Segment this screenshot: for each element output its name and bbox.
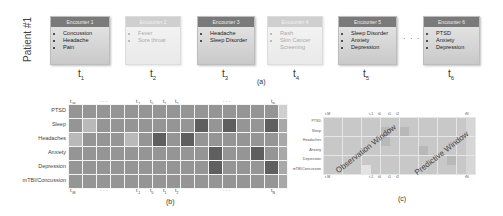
- heatmap-cell: [111, 133, 124, 146]
- heatmap-cell: [167, 119, 180, 132]
- heatmap-cell: [381, 156, 390, 165]
- diagnosis-list: ConcussionHeadachePain: [51, 30, 109, 51]
- heatmap-cell: [223, 133, 236, 146]
- heatmap-cell: [139, 119, 152, 132]
- heatmap-cell: [125, 133, 138, 146]
- diagnosis-list: Sleep DisorderAnxietyDepression: [339, 30, 396, 51]
- time-label: t4: [293, 68, 299, 81]
- heatmap-cell: [111, 175, 124, 188]
- heatmap-cell: [111, 119, 124, 132]
- heatmap-cell: [251, 119, 264, 132]
- heatmap-cell: [209, 119, 222, 132]
- heatmap-cell: [438, 165, 447, 174]
- row-label: Sleep: [52, 121, 66, 127]
- heatmap-cell: [125, 161, 138, 174]
- diagnosis-item: Depression: [351, 44, 396, 51]
- column-label: tN: [465, 112, 469, 116]
- heatmap-cell: [251, 161, 264, 174]
- encounter-title: Encounter 2: [126, 17, 180, 27]
- heatmap-cell: [83, 119, 96, 132]
- row-label: Anxiety: [309, 148, 321, 152]
- heatmap-cell: [265, 175, 278, 188]
- heatmap-cell: [390, 165, 399, 174]
- heatmap-cell: [195, 105, 208, 118]
- heatmap-cell: [279, 105, 287, 118]
- heatmap-cell: [381, 165, 390, 174]
- diagnosis-item: Headache: [210, 30, 254, 37]
- heatmap-cell: [438, 118, 447, 127]
- column-label: t0: [378, 175, 381, 179]
- heatmap-cell: [457, 156, 466, 165]
- heatmap-cell: [352, 118, 361, 127]
- heatmap-cell: [457, 118, 466, 127]
- column-label: t2: [396, 175, 399, 179]
- heatmap-cell: [352, 127, 361, 136]
- encounter-card-6: Encounter 6PTSDAnxietyDepression: [423, 16, 480, 65]
- heatmap-cell: [333, 127, 342, 136]
- heatmap-cell: [83, 133, 96, 146]
- heatmap-cell: [400, 118, 409, 127]
- heatmap-cell: [223, 175, 236, 188]
- diagnosis-item: Headache: [63, 37, 109, 44]
- heatmap-cell: [419, 127, 428, 136]
- column-label: t1: [388, 175, 391, 179]
- diagnosis-list: RashSkin Cancer Screening: [268, 30, 322, 51]
- caption-c: (c): [398, 195, 406, 202]
- heatmap-cell: [265, 161, 278, 174]
- heatmap-cell: [237, 133, 250, 146]
- heatmap-cell: [409, 127, 418, 136]
- heatmap-cell: [69, 147, 82, 160]
- heatmap-cell: [447, 165, 456, 174]
- heatmap-cell: [324, 146, 333, 155]
- row-label: mTBI/Concussion: [23, 177, 66, 183]
- heatmap-cell: [167, 147, 180, 160]
- encounter-card-4: Encounter 4RashSkin Cancer Screening: [267, 16, 323, 65]
- time-label: t5: [363, 68, 369, 81]
- heatmap-cell: [324, 156, 333, 165]
- heatmap-cell: [181, 175, 194, 188]
- heatmap-cell: [209, 175, 222, 188]
- heatmap-cell: [139, 133, 152, 146]
- heatmap-cell: [181, 105, 194, 118]
- heatmap-cell: [153, 105, 166, 118]
- heatmap-cell: [111, 147, 124, 160]
- heatmap-cell: [251, 133, 264, 146]
- heatmap-cell: [333, 137, 342, 146]
- time-label: t6: [448, 68, 454, 81]
- heatmap-cell: [209, 161, 222, 174]
- diagnosis-item: Rash: [280, 30, 322, 37]
- encounter-card-3: Encounter 3HeadacheSleep Disorder: [197, 16, 255, 65]
- heatmap-cell: [139, 161, 152, 174]
- heatmap-cell: [362, 127, 371, 136]
- heatmap-cell: [400, 127, 409, 136]
- heatmap-cell: [97, 119, 110, 132]
- heatmap-cell: [279, 175, 287, 188]
- heatmap-cell: [400, 165, 409, 174]
- heatmap-cell: [457, 165, 466, 174]
- heatmap-cell: [419, 146, 428, 155]
- heatmap-cell: [167, 161, 180, 174]
- heatmap-cell: [409, 156, 418, 165]
- heatmap-cell: [69, 119, 82, 132]
- timeline-ellipsis: · · ·: [403, 34, 420, 43]
- heatmap-cell: [343, 137, 352, 146]
- heatmap-cell: [333, 146, 342, 155]
- heatmap-cell: [97, 133, 110, 146]
- heatmap-cell: [181, 147, 194, 160]
- heatmap-cell: [223, 105, 236, 118]
- heatmap-cell: [343, 127, 352, 136]
- diagnosis-item: Anxiety: [436, 37, 479, 44]
- heatmap-cell: [97, 147, 110, 160]
- heatmap-cell: [400, 156, 409, 165]
- row-label: PTSD: [311, 119, 321, 123]
- heatmap-cell: [195, 147, 208, 160]
- heatmap-cell: [69, 133, 82, 146]
- heatmap-cell: [265, 133, 278, 146]
- heatmap-cell: [390, 146, 399, 155]
- heatmap-cell: [181, 133, 194, 146]
- heatmap-cell: [69, 175, 82, 188]
- heatmap-cell: [237, 175, 250, 188]
- heatmap-cell: [223, 161, 236, 174]
- heatmap-cell: [466, 156, 475, 165]
- heatmap-cell: [279, 161, 287, 174]
